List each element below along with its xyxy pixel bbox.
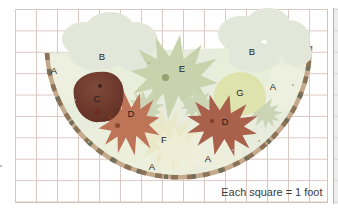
plant-c-red-dot-2 [108, 115, 112, 119]
plant-d-right-dot [210, 119, 214, 123]
plant-label-a2: A [270, 82, 276, 92]
seed-speck [88, 141, 90, 143]
plant-e-center-dot [162, 74, 169, 81]
plant-c-dark-dot [98, 84, 102, 88]
seed-speck [0, 165, 2, 167]
plant-label-g: G [236, 88, 243, 98]
plant-label-b2: B [249, 47, 255, 57]
seed-speck [74, 99, 76, 101]
plant-label-a3: A [149, 162, 155, 172]
plant-label-b1: B [99, 52, 105, 62]
plant-label-d1: D [128, 109, 135, 119]
seed-speck [148, 62, 150, 64]
plant-d-left-dot [115, 123, 120, 128]
plant-label-a4: A [205, 154, 211, 164]
plant-label-f: F [161, 135, 167, 145]
plant-label-e: E [179, 64, 185, 74]
garden-plan-diagram: A B E B A G C D D F A A Each square = 1 … [0, 0, 338, 212]
scale-legend: Each square = 1 foot [221, 186, 322, 198]
seed-speck [258, 140, 260, 142]
plant-c-red-dot [95, 109, 100, 114]
plant-label-a1: A [51, 66, 57, 76]
seed-speck [232, 149, 234, 151]
seed-speck [292, 84, 294, 86]
plant-label-c: C [94, 94, 101, 104]
plant-label-d2: D [222, 117, 229, 127]
